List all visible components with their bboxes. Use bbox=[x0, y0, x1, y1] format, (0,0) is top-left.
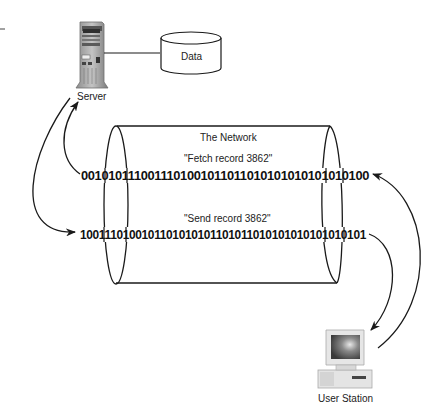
client-server-network-diagram: Server Data The Network "Fetch record 38… bbox=[0, 0, 432, 407]
network-tube bbox=[104, 126, 342, 284]
send-response-bits: 1001110100101101010101101011010101010101… bbox=[80, 228, 366, 242]
send-response-caption: "Send record 3862" bbox=[184, 213, 271, 224]
server-tower-icon bbox=[76, 22, 108, 88]
fetch-request-caption: "Fetch record 3862" bbox=[184, 153, 273, 164]
arrow-userstation-to-fetch bbox=[373, 174, 420, 348]
arrow-fetch-to-server bbox=[64, 102, 80, 174]
desktop-computer-icon bbox=[318, 330, 372, 388]
user-station-label: User Station bbox=[318, 393, 373, 404]
network-title: The Network bbox=[200, 132, 258, 143]
arrow-send-to-userstation bbox=[369, 234, 393, 330]
database-label: Data bbox=[181, 51, 203, 62]
server-label: Server bbox=[77, 91, 107, 102]
